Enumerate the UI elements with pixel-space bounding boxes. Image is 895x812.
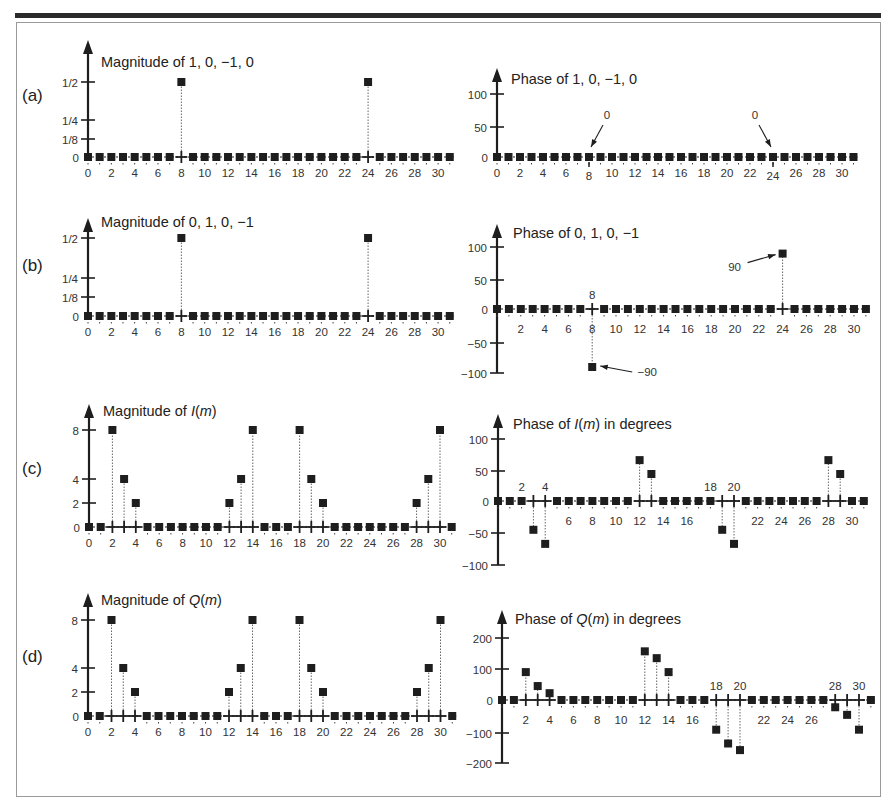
svg-text:10: 10 — [610, 515, 623, 527]
chart-c-mag: 0248024681012141618202224262830 — [73, 404, 456, 549]
svg-text:30: 30 — [434, 726, 447, 738]
svg-text:1/8: 1/8 — [62, 292, 78, 304]
svg-text:30: 30 — [846, 515, 859, 527]
svg-text:18: 18 — [293, 537, 306, 549]
svg-text:20: 20 — [315, 326, 328, 338]
chart-a-phase: 05010002468101214161820222426283000 — [468, 68, 858, 182]
chart-c-phase: −100−5005010068101214162224262830241820 — [462, 414, 868, 572]
svg-text:6: 6 — [565, 323, 571, 335]
svg-text:10: 10 — [198, 167, 211, 179]
svg-text:6: 6 — [156, 537, 162, 549]
svg-text:30: 30 — [853, 680, 866, 692]
svg-text:12: 12 — [222, 167, 235, 179]
svg-text:2: 2 — [517, 167, 523, 179]
svg-text:200: 200 — [473, 633, 492, 645]
svg-text:90: 90 — [728, 261, 741, 273]
svg-text:20: 20 — [721, 167, 734, 179]
axis-arrow-icon — [83, 218, 93, 232]
svg-text:50: 50 — [475, 466, 488, 478]
svg-text:14: 14 — [662, 714, 675, 726]
svg-text:8: 8 — [73, 425, 79, 437]
svg-text:26: 26 — [800, 323, 813, 335]
svg-text:2: 2 — [518, 323, 524, 335]
svg-text:28: 28 — [813, 167, 826, 179]
svg-text:2: 2 — [109, 537, 115, 549]
svg-text:2: 2 — [72, 687, 78, 699]
svg-text:0: 0 — [85, 167, 91, 179]
svg-text:4: 4 — [541, 323, 548, 335]
svg-text:16: 16 — [686, 714, 699, 726]
svg-text:18: 18 — [698, 167, 711, 179]
svg-text:0: 0 — [752, 109, 758, 121]
svg-text:30: 30 — [434, 537, 447, 549]
svg-text:22: 22 — [751, 515, 764, 527]
svg-text:16: 16 — [680, 515, 693, 527]
svg-text:6: 6 — [155, 167, 161, 179]
svg-text:10: 10 — [199, 726, 212, 738]
svg-text:28: 28 — [824, 323, 837, 335]
svg-text:−50: −50 — [467, 338, 487, 350]
svg-text:0: 0 — [483, 496, 489, 508]
svg-text:22: 22 — [340, 726, 353, 738]
axis-arrow-icon — [493, 414, 503, 428]
svg-text:8: 8 — [179, 537, 185, 549]
svg-text:22: 22 — [340, 537, 353, 549]
svg-text:4: 4 — [133, 537, 140, 549]
svg-text:26: 26 — [790, 167, 803, 179]
svg-text:10: 10 — [606, 167, 619, 179]
svg-text:2: 2 — [518, 481, 524, 493]
svg-text:18: 18 — [292, 167, 305, 179]
svg-text:4: 4 — [542, 481, 549, 493]
svg-text:16: 16 — [270, 537, 283, 549]
svg-text:0: 0 — [85, 326, 91, 338]
svg-text:12: 12 — [223, 726, 236, 738]
svg-text:0: 0 — [73, 711, 79, 723]
svg-text:24: 24 — [775, 515, 788, 527]
svg-text:4: 4 — [131, 167, 138, 179]
chart-a-mag: 01/81/41/2024681012141618202224262830 — [62, 40, 454, 179]
svg-text:28: 28 — [822, 515, 835, 527]
svg-text:16: 16 — [268, 326, 281, 338]
svg-text:2: 2 — [108, 326, 114, 338]
stem-plots: 01/81/41/2024681012141618202224262830050… — [0, 0, 895, 812]
svg-text:0: 0 — [482, 304, 488, 316]
svg-text:14: 14 — [652, 167, 665, 179]
svg-text:28: 28 — [410, 537, 423, 549]
svg-text:−100: −100 — [462, 560, 488, 572]
svg-text:4: 4 — [73, 474, 80, 486]
svg-text:16: 16 — [681, 323, 694, 335]
svg-text:12: 12 — [223, 537, 236, 549]
axis-arrow-icon — [84, 404, 94, 418]
svg-text:30: 30 — [432, 326, 445, 338]
svg-text:8: 8 — [589, 515, 595, 527]
svg-text:14: 14 — [657, 515, 670, 527]
svg-text:2: 2 — [73, 498, 79, 510]
svg-text:6: 6 — [570, 714, 576, 726]
svg-text:18: 18 — [704, 481, 717, 493]
svg-text:26: 26 — [387, 726, 400, 738]
svg-text:26: 26 — [385, 326, 398, 338]
svg-text:26: 26 — [387, 537, 400, 549]
svg-text:26: 26 — [798, 515, 811, 527]
svg-text:0: 0 — [487, 695, 493, 707]
svg-text:−200: −200 — [466, 758, 492, 770]
svg-text:1/2: 1/2 — [62, 77, 78, 89]
svg-text:4: 4 — [540, 167, 547, 179]
svg-text:20: 20 — [734, 680, 747, 692]
svg-text:0: 0 — [74, 522, 80, 534]
axis-arrow-icon — [83, 593, 93, 607]
svg-text:20: 20 — [729, 323, 742, 335]
svg-text:0: 0 — [73, 311, 79, 323]
svg-text:2: 2 — [523, 714, 529, 726]
svg-text:10: 10 — [610, 323, 623, 335]
svg-text:0: 0 — [604, 109, 610, 121]
axis-arrow-icon — [492, 224, 502, 238]
svg-text:24: 24 — [362, 326, 375, 338]
svg-text:100: 100 — [473, 664, 492, 676]
svg-text:16: 16 — [675, 167, 688, 179]
svg-text:28: 28 — [408, 167, 421, 179]
svg-text:−90: −90 — [637, 366, 657, 378]
svg-text:18: 18 — [710, 680, 723, 692]
svg-text:0: 0 — [494, 167, 500, 179]
svg-text:8: 8 — [179, 726, 185, 738]
